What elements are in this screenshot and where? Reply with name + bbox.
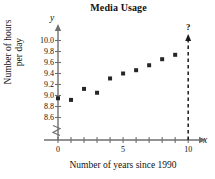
data-point: [95, 91, 99, 95]
data-point: [173, 53, 177, 57]
data-point: [160, 57, 164, 61]
chart-container: Media Usage Number of hours per day Numb…: [0, 0, 215, 179]
y-axis-break-symbol: [53, 126, 60, 136]
data-point: [121, 72, 125, 76]
data-point: [56, 96, 60, 100]
data-point: [134, 68, 138, 72]
data-point: [69, 98, 73, 102]
data-point: [82, 87, 86, 91]
question-mark-annotation: ?: [186, 22, 191, 32]
axis-ticks: [55, 41, 188, 144]
data-point: [108, 76, 112, 80]
data-point: [147, 63, 151, 67]
chart-canvas: [0, 0, 215, 179]
axes: [44, 24, 206, 143]
data-points: [56, 53, 177, 102]
prediction-line: [185, 34, 191, 140]
